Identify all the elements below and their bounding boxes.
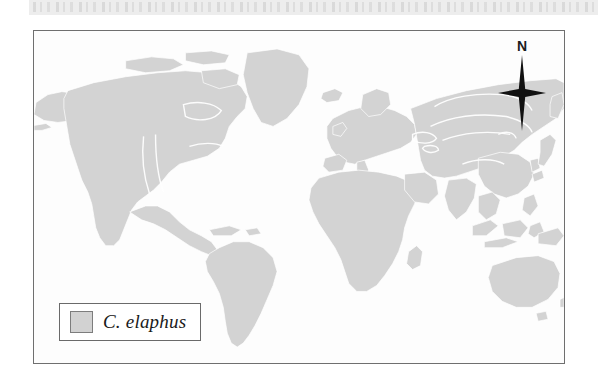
landmass-new-zealand-n — [560, 297, 564, 307]
landmass-japan-south — [532, 170, 544, 182]
landmass-aleutians — [34, 123, 52, 130]
landmass-greenland — [243, 49, 309, 127]
landmass-kamchatka — [550, 93, 564, 119]
landmass-java — [484, 238, 518, 248]
landmass-arctic-islands-b — [185, 51, 229, 65]
landmass-iceland — [321, 89, 343, 103]
landmass-tasmania — [536, 311, 548, 321]
landmass-arctic-islands-a — [126, 57, 184, 73]
landmass-borneo — [502, 220, 528, 238]
map-legend: C. elaphus — [59, 303, 201, 341]
landmass-sumatra — [472, 220, 498, 236]
landmass-japan — [538, 134, 556, 166]
legend-label-c-elaphus: C. elaphus — [103, 311, 186, 333]
landmass-central-america — [130, 206, 218, 256]
landmass-africa — [309, 170, 419, 291]
legend-swatch-c-elaphus — [70, 311, 93, 333]
landmass-caribbean-a — [209, 226, 241, 236]
figure-frame: N C. elaphus — [33, 30, 565, 364]
landmass-madagascar — [407, 246, 423, 270]
landmass-australia — [488, 256, 560, 308]
landmass-caribbean-b — [245, 228, 261, 236]
landmass-philippines — [522, 194, 538, 216]
landmass-indochina — [478, 192, 500, 220]
scan-artifact-band — [29, 0, 598, 15]
landmass-india — [444, 178, 476, 220]
landmass-south-america — [205, 242, 277, 347]
